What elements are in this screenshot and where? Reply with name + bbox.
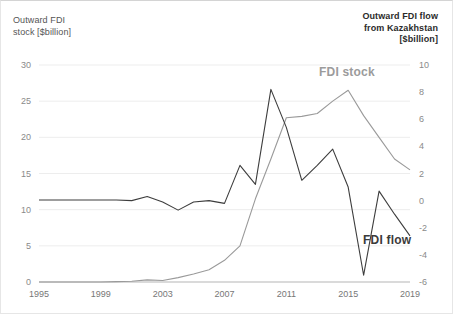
x-tick-label: 2011 — [266, 289, 306, 299]
left-tick-label: 20 — [9, 132, 31, 142]
left-tick-label: 25 — [9, 96, 31, 106]
x-tick-label: 1995 — [19, 289, 59, 299]
x-tick-label: 2015 — [328, 289, 368, 299]
left-tick-label: 5 — [9, 241, 31, 251]
right-tick-label: 10 — [419, 60, 441, 70]
left-tick-label: 10 — [9, 205, 31, 215]
right-tick-label: -4 — [419, 250, 441, 260]
right-tick-label: 0 — [419, 196, 441, 206]
series-label-fdi-flow: FDI flow — [363, 233, 411, 247]
x-tick-label: 2007 — [205, 289, 245, 299]
right-tick-label: 4 — [419, 141, 441, 151]
x-tick-label: 2003 — [143, 289, 183, 299]
left-tick-label: 0 — [9, 277, 31, 287]
series-label-fdi-stock: FDI stock — [319, 65, 375, 79]
gridlines-group — [39, 65, 410, 282]
x-tick-label: 2019 — [390, 289, 430, 299]
right-tick-label: -6 — [419, 277, 441, 287]
right-tick-label: 6 — [419, 114, 441, 124]
x-tick-label: 1999 — [81, 289, 121, 299]
right-tick-label: 8 — [419, 87, 441, 97]
plot-area — [1, 1, 453, 314]
chart-container: Outward FDI stock [$billion] Outward FDI… — [0, 0, 453, 314]
right-tick-label: 2 — [419, 169, 441, 179]
series-line-fdi-flow — [39, 89, 410, 275]
left-tick-label: 30 — [9, 60, 31, 70]
left-tick-label: 15 — [9, 169, 31, 179]
series-line-fdi-stock — [39, 90, 410, 282]
right-tick-label: -2 — [419, 223, 441, 233]
